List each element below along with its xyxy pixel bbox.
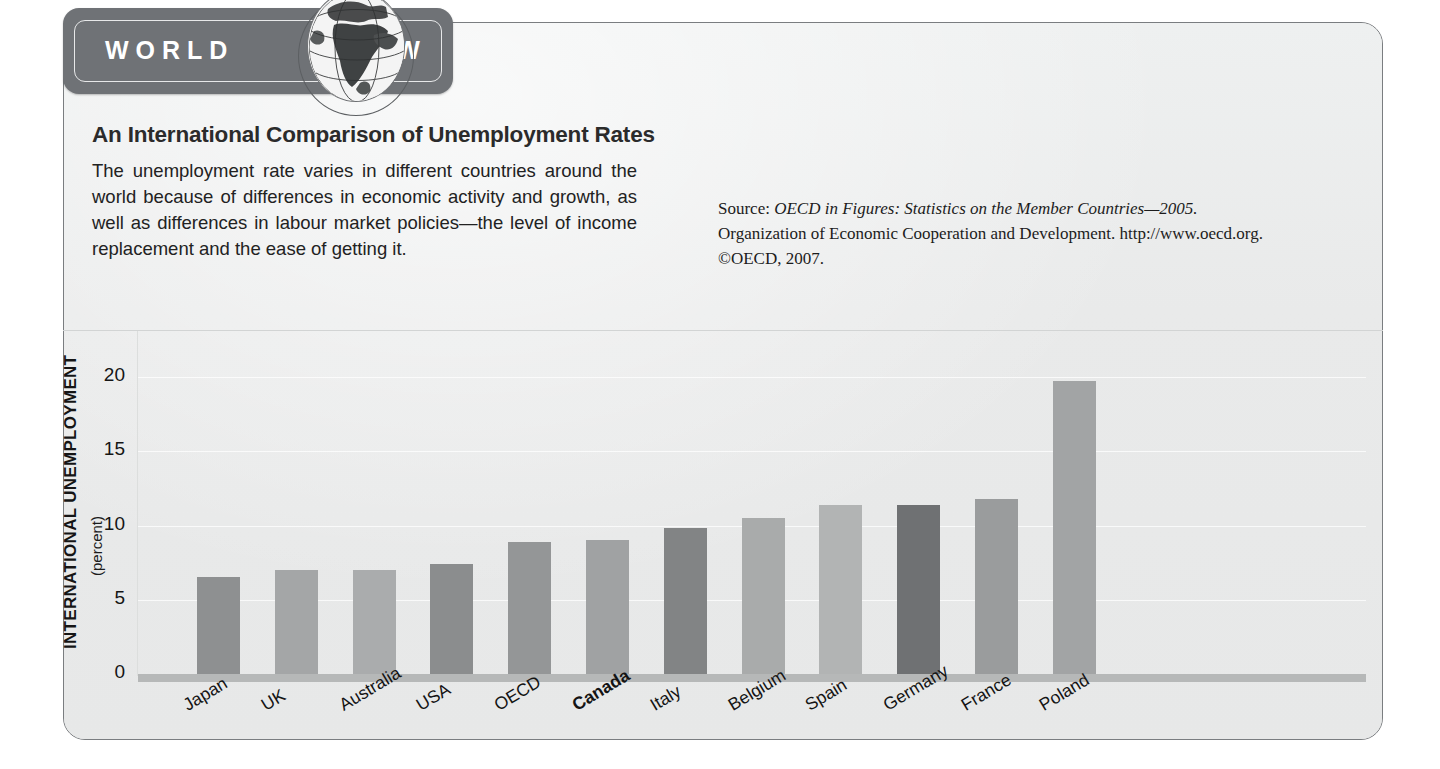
bar-australia — [353, 570, 396, 674]
bars-layer — [63, 331, 1383, 674]
bar-canada — [586, 540, 629, 674]
bar-oecd — [508, 542, 551, 674]
source-rest: Organization of Economic Cooperation and… — [718, 224, 1263, 268]
source-note: Source: OECD in Figures: Statistics on t… — [718, 196, 1278, 271]
bar-spain — [819, 505, 862, 674]
intro-paragraph: The unemployment rate varies in differen… — [92, 158, 637, 262]
page-title: An International Comparison of Unemploym… — [92, 122, 655, 148]
bar-poland — [1053, 381, 1096, 674]
bar-italy — [664, 528, 707, 674]
x-label-italy: Italy — [646, 681, 684, 716]
x-label-usa: USA — [413, 679, 455, 716]
bar-belgium — [742, 518, 785, 674]
bar-france — [975, 499, 1018, 674]
source-prefix: Source: — [718, 199, 774, 218]
plot-area: INTERNATIONAL UNEMPLOYMENT (percent) 051… — [63, 331, 1383, 726]
bar-japan — [197, 577, 240, 674]
unemployment-bar-chart: INTERNATIONAL UNEMPLOYMENT (percent) 051… — [63, 330, 1383, 725]
banner-word-world: WORLD — [105, 36, 234, 65]
source-title: OECD in Figures: Statistics on the Membe… — [774, 199, 1197, 218]
globe-icon — [298, 0, 416, 118]
bar-usa — [430, 564, 473, 674]
bar-germany — [897, 505, 940, 674]
textbook-page: WORLD VIEW — [0, 0, 1440, 769]
x-label-uk: UK — [257, 685, 289, 716]
bar-uk — [275, 570, 318, 674]
